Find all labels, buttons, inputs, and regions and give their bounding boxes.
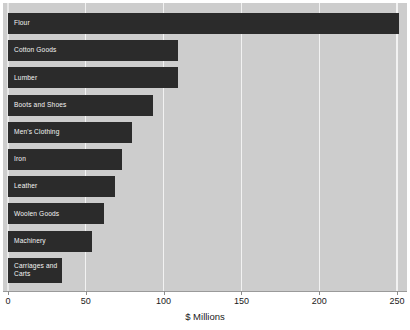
tick-mark — [319, 291, 320, 295]
bar[interactable]: Iron — [8, 149, 122, 170]
x-tick-label: 250 — [389, 296, 404, 306]
bar[interactable]: Woolen Goods — [8, 203, 104, 224]
tick-mark — [8, 291, 9, 295]
bar-label: Flour — [8, 19, 34, 27]
bar-row: Boots and Shoes — [3, 95, 407, 116]
bar-label: Iron — [8, 155, 30, 163]
bar-label: Machinery — [8, 237, 50, 245]
bar[interactable]: Boots and Shoes — [8, 95, 153, 116]
bar-row: Men's Clothing — [3, 122, 407, 143]
bar[interactable]: Men's Clothing — [8, 122, 132, 143]
bar-label: Boots and Shoes — [8, 101, 70, 109]
bar[interactable]: Machinery — [8, 231, 92, 252]
bar[interactable]: Flour — [8, 13, 399, 34]
bar-row: Cotton Goods — [3, 40, 407, 61]
bar-label: Leather — [8, 182, 41, 190]
bar[interactable]: Leather — [8, 176, 115, 197]
horizontal-bar-chart: FlourCotton GoodsLumberBoots and ShoesMe… — [0, 0, 410, 330]
bar-label: Carriages and Carts — [8, 262, 61, 279]
bar[interactable]: Lumber — [8, 67, 178, 88]
bar-label: Lumber — [8, 74, 41, 82]
bar-row: Iron — [3, 149, 407, 170]
bar-row: Machinery — [3, 231, 407, 252]
bar-label: Cotton Goods — [8, 46, 61, 54]
bar-row: Lumber — [3, 67, 407, 88]
tick-mark — [164, 291, 165, 295]
bar-row: Carriages and Carts — [3, 258, 407, 283]
x-tick-label: 150 — [234, 296, 249, 306]
tick-mark — [86, 291, 87, 295]
bars-container: FlourCotton GoodsLumberBoots and ShoesMe… — [3, 3, 407, 291]
x-axis-line — [3, 291, 407, 292]
x-axis-title: $ Millions — [0, 311, 410, 322]
x-tick-label: 100 — [156, 296, 171, 306]
x-tick-label: 0 — [5, 296, 10, 306]
bar-row: Woolen Goods — [3, 203, 407, 224]
bar-label: Men's Clothing — [8, 128, 64, 136]
bar-row: Leather — [3, 176, 407, 197]
x-tick-label: 200 — [312, 296, 327, 306]
bar-row: Flour — [3, 13, 407, 34]
bar[interactable]: Carriages and Carts — [8, 258, 62, 283]
x-tick-label: 50 — [81, 296, 91, 306]
bar-label: Woolen Goods — [8, 210, 63, 218]
tick-mark — [397, 291, 398, 295]
plot-area: FlourCotton GoodsLumberBoots and ShoesMe… — [3, 3, 407, 291]
tick-mark — [241, 291, 242, 295]
bar[interactable]: Cotton Goods — [8, 40, 178, 61]
